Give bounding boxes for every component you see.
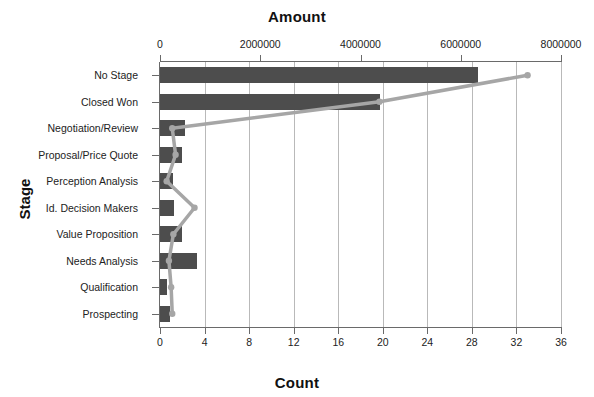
count-tick-label: 16 bbox=[332, 336, 344, 348]
gridline bbox=[561, 62, 562, 327]
count-tick-label: 24 bbox=[421, 336, 433, 348]
count-marker bbox=[169, 125, 175, 131]
amount-tick bbox=[361, 55, 362, 62]
count-tick-label: 0 bbox=[157, 336, 163, 348]
y-axis-tick bbox=[152, 314, 160, 315]
count-marker bbox=[168, 284, 174, 290]
y-axis-tick bbox=[152, 208, 160, 209]
count-tick bbox=[472, 327, 473, 334]
plot-area bbox=[160, 62, 561, 327]
count-marker bbox=[170, 231, 176, 237]
count-tick bbox=[516, 327, 517, 334]
y-axis-tick bbox=[152, 155, 160, 156]
amount-tick-label: 0 bbox=[157, 38, 163, 50]
count-tick bbox=[294, 327, 295, 334]
y-axis-label: Proposal/Price Quote bbox=[38, 149, 138, 161]
count-tick-label: 32 bbox=[511, 336, 523, 348]
y-axis-label: Closed Won bbox=[81, 96, 138, 108]
y-axis-label: Needs Analysis bbox=[66, 255, 138, 267]
count-marker bbox=[172, 152, 178, 158]
amount-tick bbox=[561, 55, 562, 62]
count-marker bbox=[163, 178, 169, 184]
count-marker bbox=[524, 72, 530, 78]
amount-tick-label: 4000000 bbox=[340, 38, 381, 50]
amount-tick bbox=[461, 55, 462, 62]
count-tick bbox=[205, 327, 206, 334]
y-axis-tick bbox=[152, 234, 160, 235]
count-marker bbox=[191, 205, 197, 211]
count-marker bbox=[169, 311, 175, 317]
y-axis-label: Perception Analysis bbox=[46, 175, 138, 187]
chart-container: Amount Count Stage No StageClosed WonNeg… bbox=[0, 0, 594, 397]
line-series-count bbox=[160, 62, 561, 327]
count-tick bbox=[427, 327, 428, 334]
count-tick bbox=[160, 327, 161, 334]
y-axis-tick bbox=[152, 102, 160, 103]
bottom-axis-line bbox=[160, 327, 562, 328]
y-axis-labels: No StageClosed WonNegotiation/ReviewProp… bbox=[0, 0, 150, 397]
count-tick bbox=[338, 327, 339, 334]
y-axis-label: Value Proposition bbox=[56, 228, 138, 240]
count-tick-label: 12 bbox=[288, 336, 300, 348]
y-axis-tick bbox=[152, 261, 160, 262]
y-axis-label: Id. Decision Makers bbox=[46, 202, 138, 214]
count-tick-label: 36 bbox=[555, 336, 567, 348]
y-axis-tick bbox=[152, 181, 160, 182]
count-tick-label: 28 bbox=[466, 336, 478, 348]
amount-tick-label: 6000000 bbox=[440, 38, 481, 50]
y-axis-tick bbox=[152, 75, 160, 76]
y-axis-tick bbox=[152, 287, 160, 288]
count-tick bbox=[383, 327, 384, 334]
y-axis-label: Qualification bbox=[80, 281, 138, 293]
count-tick-label: 4 bbox=[202, 336, 208, 348]
y-axis-label: Prospecting bbox=[83, 308, 138, 320]
amount-tick bbox=[260, 55, 261, 62]
count-tick bbox=[249, 327, 250, 334]
count-marker bbox=[166, 258, 172, 264]
count-marker bbox=[376, 99, 382, 105]
y-axis-tick bbox=[152, 128, 160, 129]
count-tick-label: 8 bbox=[246, 336, 252, 348]
amount-tick bbox=[160, 55, 161, 62]
amount-tick-label: 8000000 bbox=[541, 38, 582, 50]
count-tick-label: 20 bbox=[377, 336, 389, 348]
amount-tick-label: 2000000 bbox=[240, 38, 281, 50]
count-tick bbox=[561, 327, 562, 334]
y-axis-label: No Stage bbox=[94, 69, 138, 81]
count-line bbox=[167, 75, 528, 314]
y-axis-label: Negotiation/Review bbox=[48, 122, 138, 134]
